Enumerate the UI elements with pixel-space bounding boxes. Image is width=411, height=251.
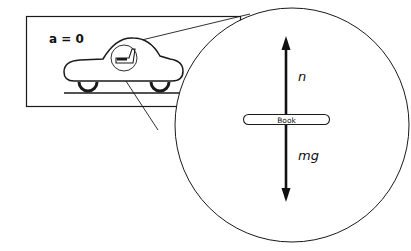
acceleration-label: a = 0 xyxy=(49,32,84,46)
free-body-diagram: a = 0 Book n mg xyxy=(0,0,411,251)
normal-force-label: n xyxy=(298,69,306,84)
book-label: Book xyxy=(277,116,296,125)
book-small xyxy=(117,58,127,61)
weight-force-label: mg xyxy=(298,148,319,163)
